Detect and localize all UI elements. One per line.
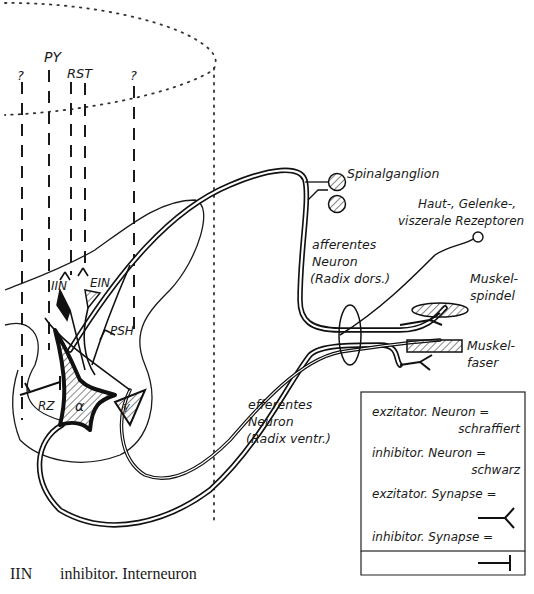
label-afferent-3: (Radix dors.) xyxy=(310,271,390,286)
spinal-reflex-diagram: ? PY RST ? α γ RZ xyxy=(0,0,534,594)
fiber-synapse xyxy=(400,355,432,370)
label-rz: RZ xyxy=(38,399,55,413)
renshaw-connection xyxy=(20,376,60,395)
legend-excitatory-synapse: exzitator. Synapse = xyxy=(372,487,496,501)
figure-caption: IIN inhibitor. Interneuron xyxy=(10,565,197,583)
label-py: PY xyxy=(44,49,62,65)
spinal-cord-outline xyxy=(5,3,216,525)
label-afferent-2: Neuron xyxy=(312,254,358,269)
inhibitory-interneuron xyxy=(57,290,70,320)
spinal-ganglion xyxy=(305,174,346,213)
label-unknown-right: ? xyxy=(130,68,137,83)
label-efferent-1: efferentes xyxy=(248,397,313,412)
label-ein: EIN xyxy=(90,276,110,290)
label-psh: PSH xyxy=(110,324,134,338)
label-iin: IIN xyxy=(51,279,67,293)
label-muscle-fiber-1: Muskel- xyxy=(467,338,516,353)
muscle-fiber xyxy=(407,340,462,352)
label-afferent-1: afferentes xyxy=(312,237,377,252)
legend-inhibitory-neuron: inhibitor. Neuron = xyxy=(372,446,486,460)
label-spinal-ganglion: Spinalganglion xyxy=(347,166,439,181)
legend-excitatory-neuron: exzitator. Neuron = xyxy=(372,405,489,419)
label-efferent-2: Neuron xyxy=(248,414,294,429)
receptor-fiber xyxy=(340,238,475,335)
legend-excitatory-neuron-value: schraffiert xyxy=(458,422,521,436)
label-muscle-spindle-1: Muskel- xyxy=(470,271,519,286)
label-unknown-left: ? xyxy=(17,68,24,83)
tract-labels: ? PY RST ? xyxy=(17,49,137,83)
label-rst: RST xyxy=(67,66,93,81)
legend: exzitator. Neuron = schraffiert inhibito… xyxy=(361,392,525,551)
legend-inhibitory-synapse: inhibitor. Synapse = xyxy=(372,530,493,544)
label-receptors-2: viszerale Rezeptoren xyxy=(398,214,524,228)
gamma-motoneuron xyxy=(115,390,145,425)
label-alpha: α xyxy=(75,398,85,414)
label-receptors-1: Haut-, Gelenke-, xyxy=(418,197,516,211)
inhibitory-synapse-symbol xyxy=(478,555,510,571)
legend-inhibitory-neuron-value: schwarz xyxy=(471,463,521,477)
label-gamma: γ xyxy=(123,400,130,413)
descending-tracts xyxy=(22,70,134,420)
nerve-root-ring xyxy=(339,305,361,365)
caption-abbreviation: IIN xyxy=(10,565,56,583)
label-efferent-3: (Radix ventr.) xyxy=(246,431,331,446)
muscle-spindle xyxy=(412,303,468,317)
receptor-ending xyxy=(473,232,483,242)
label-muscle-spindle-2: spindel xyxy=(470,288,515,303)
label-muscle-fiber-2: faser xyxy=(467,355,499,370)
caption-definition: inhibitor. Interneuron xyxy=(60,565,197,582)
